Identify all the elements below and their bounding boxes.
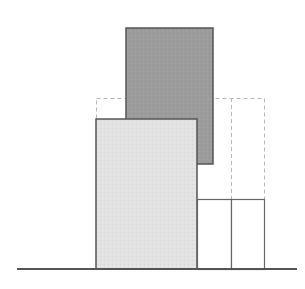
small-box-2 bbox=[232, 200, 265, 270]
small-box-1 bbox=[198, 200, 232, 270]
stacked-blocks-diagram bbox=[0, 0, 305, 289]
small-boxes bbox=[198, 200, 265, 270]
light-block bbox=[96, 119, 197, 269]
